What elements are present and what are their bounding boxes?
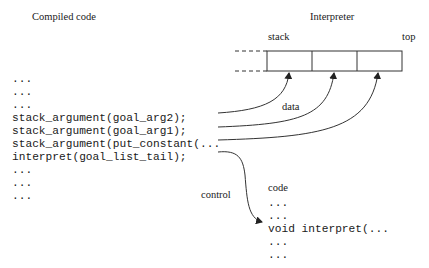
control-arrow <box>218 152 262 222</box>
data-arrow-goal-arg1 <box>218 73 334 127</box>
stack-cells <box>267 51 402 71</box>
stack-dashed-extension <box>235 51 267 71</box>
diagram-graphics <box>0 0 429 268</box>
data-arrow-goal-arg2 <box>218 73 289 113</box>
data-arrows <box>218 73 378 140</box>
data-arrow-put-constant <box>218 73 378 140</box>
